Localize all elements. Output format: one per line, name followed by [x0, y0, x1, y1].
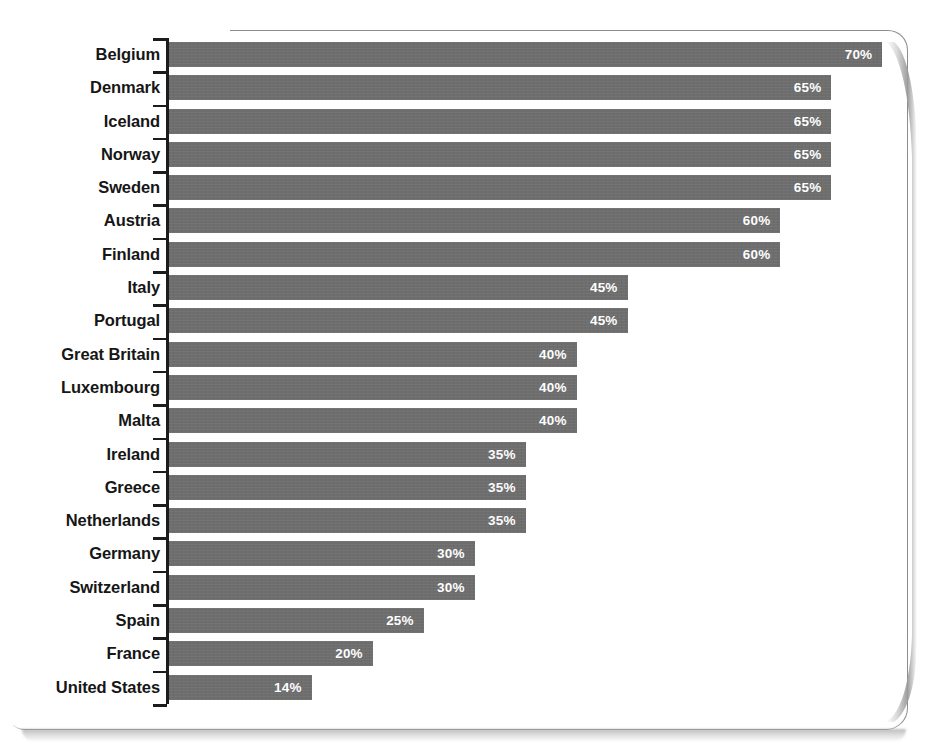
category-label: Netherlands — [66, 504, 160, 537]
bar: 35% — [169, 508, 526, 533]
bar-value-label: 45% — [590, 275, 618, 300]
category-label: Great Britain — [61, 338, 160, 371]
bar-value-label: 65% — [794, 142, 822, 167]
bar-row: Denmark65% — [0, 71, 929, 104]
bar-row: Sweden65% — [0, 171, 929, 204]
bar-value-label: 35% — [488, 508, 516, 533]
category-label: Austria — [104, 204, 160, 237]
bar-value-label: 60% — [743, 242, 771, 267]
bar-row: Portugal45% — [0, 304, 929, 337]
bar-value-label: 25% — [386, 608, 414, 633]
category-label: United States — [56, 671, 160, 704]
category-label: Luxembourg — [61, 371, 160, 404]
category-label: Malta — [118, 404, 160, 437]
bar-row: Finland60% — [0, 238, 929, 271]
category-label: Greece — [105, 471, 160, 504]
category-label: Italy — [127, 271, 160, 304]
bar-value-label: 40% — [539, 375, 567, 400]
bar-row: United States14% — [0, 671, 929, 704]
category-label: Norway — [101, 138, 160, 171]
category-label: Portugal — [94, 304, 160, 337]
bar: 65% — [169, 75, 831, 100]
bar: 70% — [169, 42, 882, 67]
bar: 60% — [169, 208, 780, 233]
bar-value-label: 14% — [274, 675, 302, 700]
bar-row: Switzerland30% — [0, 571, 929, 604]
axis-tick-bottom — [153, 704, 167, 707]
bar: 40% — [169, 375, 577, 400]
bar: 30% — [169, 575, 475, 600]
bar-value-label: 30% — [437, 541, 465, 566]
category-label: Sweden — [98, 171, 160, 204]
bar: 40% — [169, 408, 577, 433]
bar-row: Netherlands35% — [0, 504, 929, 537]
category-label: Iceland — [104, 105, 160, 138]
bar-value-label: 35% — [488, 475, 516, 500]
category-label: Denmark — [90, 71, 160, 104]
bar: 25% — [169, 608, 424, 633]
bar: 40% — [169, 342, 577, 367]
bar-row: Iceland65% — [0, 105, 929, 138]
category-label: Finland — [102, 238, 160, 271]
bar: 30% — [169, 541, 475, 566]
horizontal-bar-chart: Belgium70%Denmark65%Iceland65%Norway65%S… — [0, 0, 929, 746]
bar-row: France20% — [0, 637, 929, 670]
bar-value-label: 60% — [743, 208, 771, 233]
category-label: Switzerland — [69, 571, 160, 604]
category-label: Germany — [89, 537, 160, 570]
bar: 65% — [169, 109, 831, 134]
bar-row: Luxembourg40% — [0, 371, 929, 404]
bar-row: Ireland35% — [0, 438, 929, 471]
bar-row: Malta40% — [0, 404, 929, 437]
bar-value-label: 65% — [794, 175, 822, 200]
bar-row: Austria60% — [0, 204, 929, 237]
bar-value-label: 70% — [845, 42, 873, 67]
bar: 20% — [169, 641, 373, 666]
bar-row: Belgium70% — [0, 38, 929, 71]
bar: 14% — [169, 675, 312, 700]
bar: 65% — [169, 142, 831, 167]
bar-value-label: 65% — [794, 109, 822, 134]
bar-row: Spain25% — [0, 604, 929, 637]
bar-value-label: 20% — [335, 641, 363, 666]
bar-value-label: 35% — [488, 442, 516, 467]
bar: 45% — [169, 308, 628, 333]
bar: 45% — [169, 275, 628, 300]
bar-row: Italy45% — [0, 271, 929, 304]
category-label: Belgium — [96, 38, 160, 71]
bar: 60% — [169, 242, 780, 267]
bar-row: Norway65% — [0, 138, 929, 171]
bar-value-label: 65% — [794, 75, 822, 100]
bar: 65% — [169, 175, 831, 200]
bar-row: Great Britain40% — [0, 338, 929, 371]
bar-value-label: 40% — [539, 408, 567, 433]
bar-value-label: 45% — [590, 308, 618, 333]
bar: 35% — [169, 442, 526, 467]
category-label: Ireland — [107, 438, 160, 471]
bar: 35% — [169, 475, 526, 500]
bar-value-label: 40% — [539, 342, 567, 367]
bar-row: Greece35% — [0, 471, 929, 504]
category-label: Spain — [116, 604, 160, 637]
bar-value-label: 30% — [437, 575, 465, 600]
bar-row: Germany30% — [0, 537, 929, 570]
category-label: France — [106, 637, 160, 670]
bar-rows: Belgium70%Denmark65%Iceland65%Norway65%S… — [0, 38, 929, 704]
